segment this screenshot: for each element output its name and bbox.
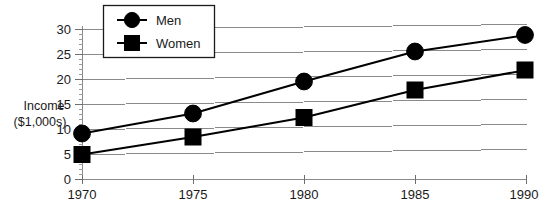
x-tick-label-1980: 1980 — [290, 187, 319, 202]
data-point-men-1970 — [74, 125, 91, 142]
data-point-men-1985 — [407, 43, 424, 60]
data-point-men-1990 — [517, 27, 534, 44]
y-tick-label-20: 20 — [57, 72, 71, 87]
chart-canvas: 30 25 20 15 10 5 0 Income ($1,000s) 1970… — [0, 0, 552, 217]
line-chart: 30 25 20 15 10 5 0 Income ($1,000s) 1970… — [0, 0, 552, 217]
x-tick-label-1990: 1990 — [510, 187, 539, 202]
data-point-women-1990 — [517, 62, 533, 78]
legend-marker-square-icon — [125, 36, 140, 51]
y-tick-label-5: 5 — [64, 147, 71, 162]
gridline-15 — [82, 100, 527, 105]
y-tick-label-0: 0 — [64, 172, 71, 187]
legend-label-men: Men — [156, 13, 181, 28]
legend[interactable]: Men Women — [104, 6, 215, 58]
y-axis-title-line2: ($1,000s) — [14, 115, 67, 129]
y-axis-title-line1: Income — [24, 99, 65, 113]
data-point-women-1980 — [296, 110, 312, 126]
legend-label-women: Women — [156, 36, 201, 51]
data-point-men-1975 — [185, 105, 202, 122]
gridline-5 — [82, 150, 527, 155]
x-tick-label-1985: 1985 — [401, 187, 430, 202]
y-axis-title: Income ($1,000s) — [14, 99, 67, 129]
data-point-women-1975 — [185, 129, 201, 145]
x-tick-label-1970: 1970 — [68, 187, 97, 202]
y-tick-label-30: 30 — [57, 22, 71, 37]
y-tick-label-25: 25 — [57, 47, 71, 62]
legend-marker-circle-icon — [124, 12, 139, 27]
legend-entry-women[interactable]: Women — [117, 36, 201, 52]
data-point-women-1970 — [74, 147, 90, 163]
x-tick-label-1975: 1975 — [179, 187, 208, 202]
data-point-women-1985 — [407, 82, 423, 98]
data-point-men-1980 — [296, 73, 313, 90]
x-axis: 1970 1975 1980 1985 1990 — [68, 175, 539, 202]
